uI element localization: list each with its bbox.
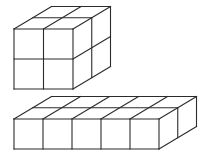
cube-diagram xyxy=(0,0,204,158)
slab-5x1x2-figure xyxy=(14,97,197,150)
cube-2x2x2-figure xyxy=(14,7,111,90)
